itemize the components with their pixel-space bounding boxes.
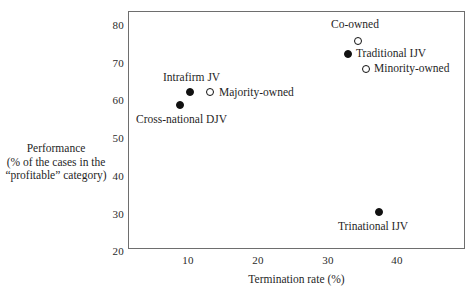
y-axis-title-line-3: “profitable” category)	[0, 169, 112, 183]
data-label-co-owned: Co-owned	[331, 18, 379, 31]
y-axis-title: Performance (% of the cases in the “prof…	[0, 142, 112, 183]
y-tick-text: 40	[113, 170, 124, 182]
y-tick-text: 70	[113, 57, 124, 69]
scatter-chart: 80 70 60 50 40 30 20 10 20 30 40 Termina…	[0, 0, 475, 297]
data-label-trinational-ijv: Trinational IJV	[338, 220, 408, 233]
x-tick-label-10: 10	[173, 255, 203, 266]
y-tick-text: 60	[113, 94, 124, 106]
data-label-minority-owned: Minority-owned	[374, 62, 449, 75]
data-point-trinational-ijv[interactable]	[375, 208, 383, 216]
data-point-co-owned[interactable]	[354, 37, 362, 45]
y-tick-label-30: 30	[108, 204, 124, 222]
y-tick-text: 20	[113, 245, 124, 257]
x-tick-label-20: 20	[243, 255, 273, 266]
data-point-traditional-ijv[interactable]	[344, 50, 352, 58]
y-tick-text: 80	[113, 19, 124, 31]
y-axis-title-line-1: Performance	[0, 142, 112, 156]
data-point-minority-owned[interactable]	[362, 65, 370, 73]
data-label-cross-national-djv: Cross-national DJV	[136, 113, 227, 126]
y-tick-text: 30	[113, 208, 124, 220]
y-tick-label-60: 60	[108, 90, 124, 108]
data-label-traditional-ijv: Traditional IJV	[356, 47, 426, 60]
y-tick-label-20: 20	[108, 241, 124, 259]
y-tick-label-80: 80	[108, 15, 124, 33]
y-axis-title-line-2: (% of the cases in the	[0, 156, 112, 170]
data-point-cross-national-djv[interactable]	[176, 101, 184, 109]
data-point-majority-owned[interactable]	[206, 88, 214, 96]
x-axis-title: Termination rate (%)	[128, 273, 465, 286]
x-tick-label-40: 40	[382, 255, 412, 266]
y-tick-label-70: 70	[108, 53, 124, 71]
x-tick-label-30: 30	[313, 255, 343, 266]
data-point-intrafirm-jv[interactable]	[186, 88, 194, 96]
data-label-intrafirm-jv: Intrafirm JV	[163, 71, 220, 84]
y-tick-text: 50	[113, 132, 124, 144]
data-label-majority-owned: Majority-owned	[219, 86, 294, 99]
